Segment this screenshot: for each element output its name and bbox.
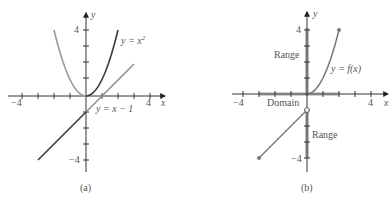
range-label-lower: Range xyxy=(312,129,338,140)
line-label: y = x − 1 xyxy=(95,103,133,114)
x-tick-neg4: −4 xyxy=(11,97,22,108)
x-tick-4: 4 xyxy=(146,97,151,108)
graph-b: y x −4 4 4 −4 Range Range Domain y = f(x… xyxy=(232,8,389,194)
endpoint-closed-origin xyxy=(305,92,309,96)
endpoint-closed-2-4 xyxy=(337,28,341,32)
y-tick-4: 4 xyxy=(296,24,301,35)
y-axis-label: y xyxy=(90,9,96,20)
fx-label: y = f(x) xyxy=(330,63,362,75)
caption-a: (a) xyxy=(80,182,91,194)
y-tick-neg4: −4 xyxy=(291,153,302,164)
endpoint-closed-neg3-neg4 xyxy=(257,156,261,160)
fx-line-lower xyxy=(259,110,307,158)
range-label-upper: Range xyxy=(274,49,300,60)
x-tick-4: 4 xyxy=(368,97,373,108)
caption-b: (b) xyxy=(301,182,313,194)
y-axis-label: y xyxy=(312,8,318,19)
endpoint-open-0-neg1 xyxy=(305,108,310,113)
x-axis-label: x xyxy=(383,97,389,108)
figure-canvas: y x −4 4 4 −4 y = x2 y = x − 1 (a) xyxy=(0,0,391,204)
x-axis-label: x xyxy=(160,97,166,108)
y-tick-4: 4 xyxy=(74,24,79,35)
parabola-left-curve xyxy=(54,30,86,96)
x-tick-neg4: −4 xyxy=(233,97,244,108)
y-tick-neg4: −4 xyxy=(69,154,80,165)
parabola-right-curve xyxy=(86,30,118,96)
line-lower-segment xyxy=(38,112,86,160)
graph-a: y x −4 4 4 −4 y = x2 y = x − 1 (a) xyxy=(8,9,166,194)
parabola-label: y = x2 xyxy=(120,34,146,46)
domain-label: Domain xyxy=(267,97,299,108)
fx-curve-upper xyxy=(307,30,339,94)
